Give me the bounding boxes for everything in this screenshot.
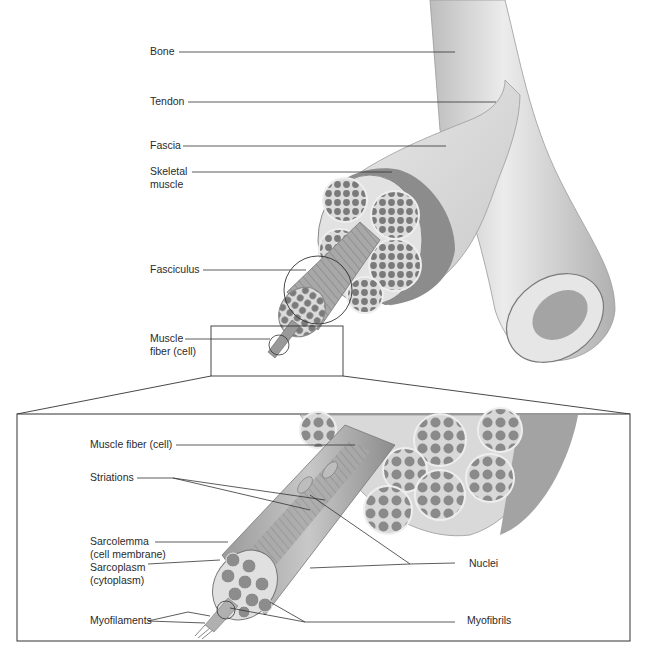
label-skeletal-muscle-line1: Skeletal [150,165,187,178]
label-sarcoplasm-line2: (cytoplasm) [90,574,145,587]
label-myofibrils: Myofibrils [467,614,511,627]
label-nuclei: Nuclei [469,557,498,570]
label-fasciculus: Fasciculus [150,263,200,276]
label-tendon: Tendon [150,95,184,108]
label-fascia: Fascia [150,139,181,152]
label-inset-muscle-fiber: Muscle fiber (cell) [90,438,172,451]
label-sarcolemma-line1: Sarcolemma [90,535,166,548]
label-sarcoplasm: Sarcoplasm (cytoplasm) [90,561,145,587]
label-muscle-fiber: Muscle fiber (cell) [150,332,196,358]
label-muscle-fiber-line2: fiber (cell) [150,345,196,358]
label-striations: Striations [90,471,134,484]
label-sarcolemma-line2: (cell membrane) [90,548,166,561]
label-sarcoplasm-line1: Sarcoplasm [90,561,145,574]
label-myofilaments: Myofilaments [90,614,152,627]
label-skeletal-muscle: Skeletal muscle [150,165,187,191]
label-skeletal-muscle-line2: muscle [150,178,187,191]
label-bone: Bone [150,45,175,58]
label-sarcolemma: Sarcolemma (cell membrane) [90,535,166,561]
label-muscle-fiber-line1: Muscle [150,332,196,345]
